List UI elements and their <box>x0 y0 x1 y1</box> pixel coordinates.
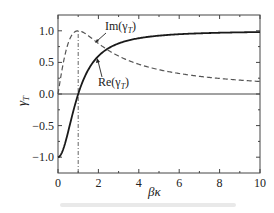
svg-text:γT: γT <box>14 95 31 106</box>
x-tick-label: 0 <box>55 176 61 190</box>
x-tick-label: 8 <box>217 176 223 190</box>
re-gamma-annotation: Re(γT) <box>98 75 129 91</box>
y-axis-label-subscript: T <box>21 95 31 101</box>
x-tick-label: 6 <box>176 176 182 190</box>
x-tick-label: 10 <box>254 176 266 190</box>
im-annotation-arrow <box>97 33 106 41</box>
y-tick-label: 0.5 <box>39 55 54 69</box>
x-tick-label: 4 <box>136 176 142 190</box>
y-axis-label: γT <box>14 95 31 106</box>
reference-lines <box>58 31 260 173</box>
im-gamma-curve <box>58 31 260 94</box>
axis-ticks: 0246810−1.0−0.50.00.51.0 <box>32 15 266 190</box>
y-tick-label: −1.0 <box>32 150 54 164</box>
re-gamma-curve <box>58 32 260 157</box>
y-tick-label: −0.5 <box>32 119 54 133</box>
im-gamma-annotation: Im(γT) <box>105 19 136 35</box>
y-tick-label: 0.0 <box>39 87 54 101</box>
figure-caption-faded <box>60 203 236 207</box>
x-axis-label: βκ <box>147 184 161 199</box>
x-tick-label: 2 <box>95 176 101 190</box>
line-chart: 0246810−1.0−0.50.00.51.0 Im(γT)Re(γT) βκ… <box>0 0 274 213</box>
y-tick-label: 1.0 <box>39 24 54 38</box>
